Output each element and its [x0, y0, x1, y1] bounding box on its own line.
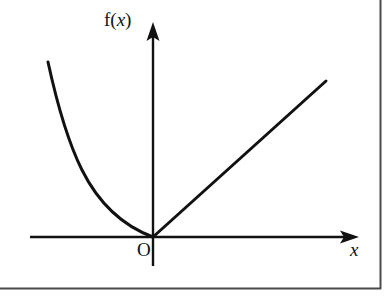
curve-left-branch: [48, 62, 153, 237]
y-axis-label-suffix: ): [125, 9, 131, 30]
x-axis-label: x: [350, 240, 358, 259]
y-axis-label-variable: x: [117, 9, 125, 30]
y-axis-label: f(x): [104, 10, 131, 29]
y-axis-label-prefix: f(: [104, 9, 117, 30]
curve-right-branch: [153, 81, 326, 237]
function-graph-svg: [0, 0, 389, 298]
origin-label: O: [137, 240, 151, 259]
figure-container: f(x) x O: [0, 0, 389, 298]
